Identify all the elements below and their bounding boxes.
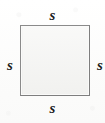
side-label-top: s — [0, 8, 105, 23]
side-label-right: s — [92, 58, 105, 73]
side-label-bottom: s — [0, 101, 105, 116]
square-shape — [20, 25, 90, 96]
geometry-figure: s s s s — [0, 0, 105, 123]
square-fill-texture — [22, 27, 88, 94]
side-label-left: s — [2, 58, 18, 73]
